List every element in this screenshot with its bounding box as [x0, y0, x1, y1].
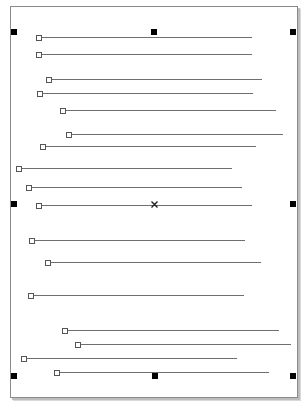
- line-start-anchor[interactable]: [45, 260, 51, 266]
- line-start-anchor[interactable]: [54, 370, 60, 376]
- rotation-center-icon[interactable]: [151, 201, 158, 208]
- line-object[interactable]: [39, 37, 252, 38]
- line-start-anchor[interactable]: [29, 238, 35, 244]
- line-start-anchor[interactable]: [16, 166, 22, 172]
- line-object[interactable]: [65, 330, 279, 331]
- line-object[interactable]: [69, 134, 283, 135]
- resize-handle-top-right[interactable]: [290, 29, 296, 35]
- line-object[interactable]: [57, 372, 269, 373]
- line-object[interactable]: [40, 93, 253, 94]
- line-start-anchor[interactable]: [37, 91, 43, 97]
- line-start-anchor[interactable]: [75, 342, 81, 348]
- line-start-anchor[interactable]: [21, 356, 27, 362]
- line-object[interactable]: [39, 205, 252, 206]
- resize-handle-bottom-left[interactable]: [11, 373, 17, 379]
- line-start-anchor[interactable]: [36, 52, 42, 58]
- line-start-anchor[interactable]: [66, 132, 72, 138]
- line-object[interactable]: [63, 110, 276, 111]
- line-object[interactable]: [48, 262, 261, 263]
- line-start-anchor[interactable]: [36, 35, 42, 41]
- line-start-anchor[interactable]: [40, 144, 46, 150]
- line-object[interactable]: [39, 54, 252, 55]
- resize-handle-middle-right[interactable]: [290, 201, 296, 207]
- line-start-anchor[interactable]: [28, 293, 34, 299]
- line-object[interactable]: [31, 295, 244, 296]
- line-object[interactable]: [78, 344, 291, 345]
- line-object[interactable]: [29, 187, 242, 188]
- drawing-canvas[interactable]: [0, 0, 307, 405]
- line-start-anchor[interactable]: [26, 185, 32, 191]
- line-object[interactable]: [49, 79, 262, 80]
- line-object[interactable]: [19, 168, 232, 169]
- line-object[interactable]: [32, 240, 245, 241]
- resize-handle-top-center[interactable]: [151, 29, 157, 35]
- resize-handle-middle-left[interactable]: [11, 201, 17, 207]
- resize-handle-top-left[interactable]: [11, 29, 17, 35]
- resize-handle-bottom-center[interactable]: [152, 373, 158, 379]
- resize-handle-bottom-right[interactable]: [290, 373, 296, 379]
- line-start-anchor[interactable]: [60, 108, 66, 114]
- line-start-anchor[interactable]: [46, 77, 52, 83]
- line-start-anchor[interactable]: [62, 328, 68, 334]
- line-object[interactable]: [43, 146, 256, 147]
- line-object[interactable]: [24, 358, 237, 359]
- line-start-anchor[interactable]: [36, 203, 42, 209]
